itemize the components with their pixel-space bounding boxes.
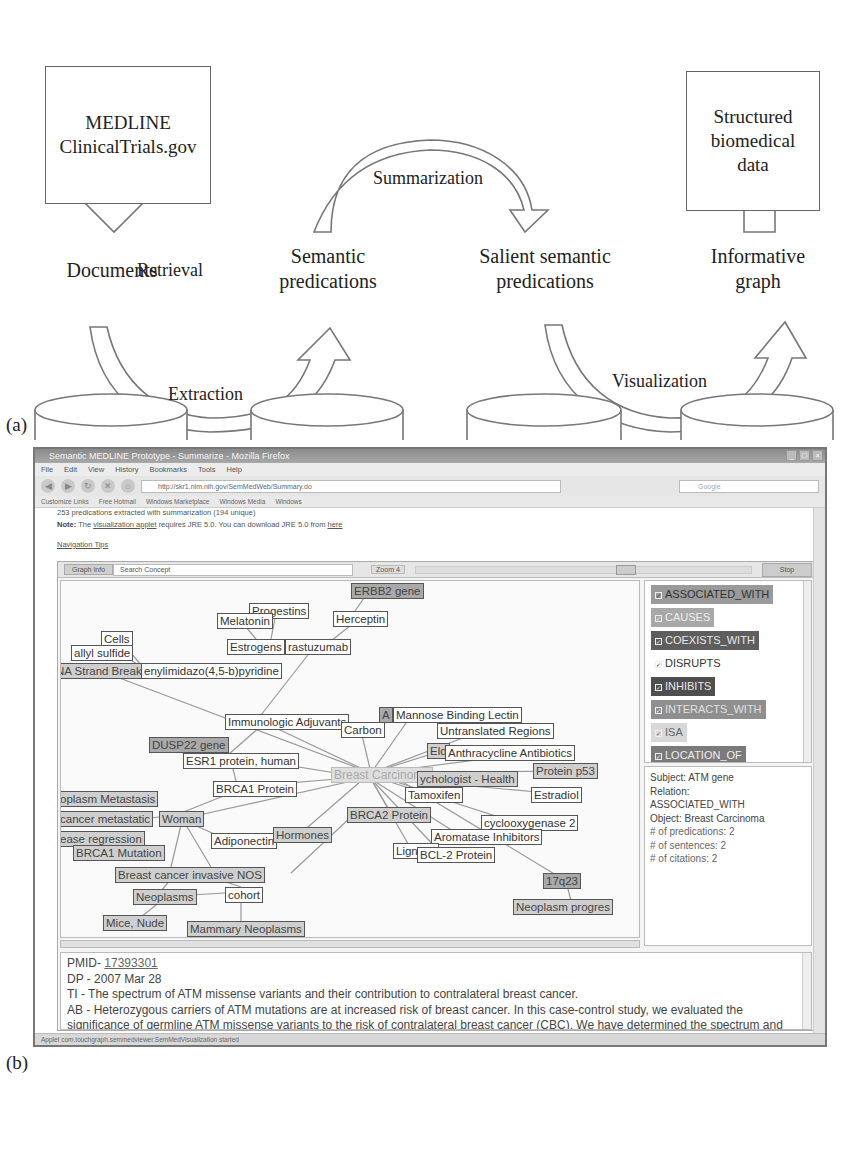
info-relation-label: Relation: xyxy=(650,785,806,799)
maximize-button[interactable]: □ xyxy=(799,450,810,461)
graph-node[interactable]: Mice, Nude xyxy=(103,915,167,931)
checkbox-icon[interactable]: ✓ xyxy=(655,707,662,714)
relation-filter-disrupts[interactable]: ✓DISRUPTS xyxy=(651,654,725,673)
relation-filter-causes[interactable]: ✓CAUSES xyxy=(651,608,714,627)
url-bar[interactable]: http://skr1.nlm.nih.gov/SemMedWeb/Summar… xyxy=(141,480,561,493)
graph-node[interactable]: Hormones xyxy=(273,827,332,843)
graph-node[interactable]: Mammary Neoplasms xyxy=(187,921,305,937)
menu-bookmarks[interactable]: Bookmarks xyxy=(150,463,188,476)
back-icon[interactable]: ◀ xyxy=(41,479,55,493)
graph-node[interactable]: Untranslated Regions xyxy=(437,723,554,739)
relation-filter-location-of[interactable]: ✓LOCATION_OF xyxy=(651,746,746,763)
menu-view[interactable]: View xyxy=(88,463,104,476)
checkbox-icon[interactable]: ✓ xyxy=(655,730,662,737)
graph-node[interactable]: Estradiol xyxy=(531,787,582,803)
bookmark-windows-media[interactable]: Windows Media xyxy=(219,496,265,507)
graph-node[interactable]: BCL-2 Protein xyxy=(417,847,495,863)
graph-node[interactable]: NA Strand Break xyxy=(60,663,145,679)
relation-label: LOCATION_OF xyxy=(665,749,742,761)
date-published: DP - 2007 Mar 28 xyxy=(67,972,805,988)
relation-label: INHIBITS xyxy=(665,680,711,692)
checkbox-icon[interactable]: ✓ xyxy=(655,592,662,599)
relation-label: CAUSES xyxy=(665,611,710,623)
graph-node[interactable]: Protein p53 xyxy=(533,763,598,779)
close-button[interactable]: × xyxy=(812,450,823,461)
visualization-applet-link[interactable]: visualization applet xyxy=(93,520,156,529)
search-input[interactable]: Google xyxy=(679,480,819,493)
graph-node[interactable]: 17q23 xyxy=(543,873,581,889)
abstract-scrollbar[interactable] xyxy=(802,953,811,1029)
bookmark-windows[interactable]: Windows xyxy=(275,496,301,507)
checkbox-icon[interactable]: ✓ xyxy=(655,684,662,691)
stop-button[interactable]: Stop xyxy=(762,563,812,577)
relation-filter-inhibits[interactable]: ✓INHIBITS xyxy=(651,677,715,696)
graph-node[interactable]: BRCA1 Mutation xyxy=(73,845,165,861)
navigation-tips-link[interactable]: Navigation Tips xyxy=(57,540,108,549)
graph-node[interactable]: allyl sulfide xyxy=(71,645,133,661)
menu-help[interactable]: Help xyxy=(227,463,242,476)
graph-horizontal-scrollbar[interactable] xyxy=(60,940,640,948)
relation-filter-panel: ✓ASSOCIATED_WITH✓CAUSES✓COEXISTS_WITH✓DI… xyxy=(644,580,812,763)
zoom-slider-thumb[interactable] xyxy=(616,565,636,575)
checkbox-icon[interactable]: ✓ xyxy=(655,638,662,645)
graph-node[interactable]: Adiponectin xyxy=(211,833,277,849)
relation-filter-isa[interactable]: ✓ISA xyxy=(651,723,687,742)
relation-scrollbar[interactable] xyxy=(803,581,811,762)
bookmark-windows-marketplace[interactable]: Windows Marketplace xyxy=(146,496,210,507)
graph-node[interactable]: BRCA2 Protein xyxy=(347,807,431,823)
reload-icon[interactable]: ↻ xyxy=(81,479,95,493)
search-concept-input[interactable]: Search Concept xyxy=(113,564,353,576)
graph-node[interactable]: enylimidazo(4,5-b)pyridine xyxy=(141,663,282,679)
graph-node[interactable]: Neoplasm progres xyxy=(513,899,613,915)
home-icon[interactable]: ⌂ xyxy=(121,479,135,493)
graph-node[interactable]: Mannose Binding Lectin xyxy=(393,707,522,723)
graph-node[interactable]: Neoplasms xyxy=(133,889,197,905)
checkbox-icon[interactable]: ✓ xyxy=(655,661,662,668)
tab-graph-info[interactable]: Graph Info xyxy=(64,564,113,575)
checkbox-icon[interactable]: ✓ xyxy=(655,753,662,760)
graph-node[interactable]: Breast cancer invasive NOS xyxy=(115,867,265,883)
graph-node[interactable]: DUSP22 gene xyxy=(149,737,229,753)
checkbox-icon[interactable]: ✓ xyxy=(655,615,662,622)
graph-node[interactable]: Estrogens xyxy=(227,639,285,655)
graph-node[interactable]: Carbon xyxy=(341,722,385,738)
stop-icon[interactable]: ✕ xyxy=(101,479,115,493)
graph-node[interactable]: Aromatase Inhibitors xyxy=(431,829,542,845)
menu-file[interactable]: File xyxy=(41,463,53,476)
jre-download-link[interactable]: here xyxy=(327,520,342,529)
graph-node[interactable]: Anthracycline Antibiotics xyxy=(445,745,575,761)
note-text-2: requires JRE 5.0. You can download JRE 5… xyxy=(159,520,326,529)
bookmark-customize-links[interactable]: Customize Links xyxy=(41,496,89,507)
graph-node[interactable]: rastuzumab xyxy=(285,639,351,655)
graph-node[interactable]: Tamoxifen xyxy=(405,787,463,803)
graph-node[interactable]: Melatonin xyxy=(217,613,273,629)
minimize-button[interactable]: _ xyxy=(786,450,797,461)
graph-node[interactable]: ESR1 protein, human xyxy=(183,753,299,769)
forward-icon[interactable]: ▶ xyxy=(61,479,75,493)
menu-edit[interactable]: Edit xyxy=(64,463,77,476)
graph-node[interactable]: Woman xyxy=(159,811,204,827)
relation-list: ✓ASSOCIATED_WITH✓CAUSES✓COEXISTS_WITH✓DI… xyxy=(645,581,811,763)
zoom-slider[interactable] xyxy=(415,566,752,574)
graph-node[interactable]: A xyxy=(379,707,393,723)
relation-filter-interacts-with[interactable]: ✓INTERACTS_WITH xyxy=(651,700,766,719)
graph-node[interactable]: oplasm Metastasis xyxy=(60,791,158,807)
relation-filter-coexists-with[interactable]: ✓COEXISTS_WITH xyxy=(651,631,759,650)
pmid-link[interactable]: 17393301 xyxy=(104,956,157,970)
menu-history[interactable]: History xyxy=(115,463,138,476)
browser-window: Semantic MEDLINE Prototype - Summarize -… xyxy=(33,447,827,1047)
info-subject: Subject: ATM gene xyxy=(650,771,806,785)
graph-node[interactable]: Herceptin xyxy=(333,611,388,627)
graph-node[interactable]: cohort xyxy=(225,887,263,903)
graph-node[interactable]: BRCA1 Protein xyxy=(213,781,297,797)
graph-canvas[interactable]: ERBB2 geneProgestinsMelatoninHerceptinEs… xyxy=(60,580,640,938)
relation-filter-associated-with[interactable]: ✓ASSOCIATED_WITH xyxy=(651,585,773,604)
menu-tools[interactable]: Tools xyxy=(198,463,216,476)
page-scrollbar[interactable] xyxy=(813,508,825,1033)
graph-node[interactable]: Immunologic Adjuvants xyxy=(225,714,349,730)
graph-node[interactable]: cancer metastatic xyxy=(60,811,153,827)
graph-node[interactable]: ERBB2 gene xyxy=(351,583,424,599)
bookmark-free-hotmail[interactable]: Free Hotmail xyxy=(99,496,136,507)
graph-node[interactable]: ychologist - Health xyxy=(417,771,518,787)
label-retrieval: Retrieval xyxy=(137,260,203,281)
